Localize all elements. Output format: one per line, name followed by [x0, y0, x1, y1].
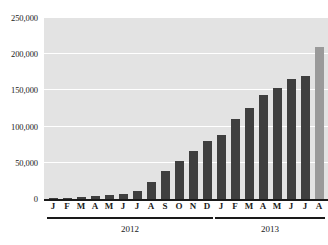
bar-slot — [144, 18, 158, 199]
year-group-rule — [215, 217, 325, 219]
plot-area — [44, 18, 328, 199]
x-axis-tick-label: D — [200, 201, 214, 216]
x-axis-tick-label: F — [60, 201, 74, 216]
bar[interactable] — [259, 95, 268, 199]
year-group: 2012 — [46, 217, 214, 245]
x-axis-tick-label: A — [88, 201, 102, 216]
bar[interactable] — [189, 151, 198, 199]
x-axis-tick-label: F — [228, 201, 242, 216]
bar[interactable] — [315, 47, 324, 199]
x-axis-tick-label: J — [116, 201, 130, 216]
bar[interactable] — [203, 141, 212, 199]
bar-slot — [228, 18, 242, 199]
bar-slot — [200, 18, 214, 199]
bar-slot — [102, 18, 116, 199]
x-axis-tick-label: O — [172, 201, 186, 216]
bar-slot — [256, 18, 270, 199]
year-group-rule — [47, 217, 213, 219]
y-axis: 050,000100,000150,000200,000250,000 — [0, 0, 40, 199]
bar-slot — [284, 18, 298, 199]
x-axis-tick-label: J — [284, 201, 298, 216]
bar-slot — [116, 18, 130, 199]
year-group-label: 2012 — [46, 224, 214, 234]
bar[interactable] — [175, 161, 184, 199]
y-axis-tick-label: 0 — [34, 194, 38, 204]
bar-slot — [270, 18, 284, 199]
y-axis-tick-label: 150,000 — [11, 85, 38, 95]
y-axis-tick-label: 50,000 — [15, 158, 38, 168]
x-axis-tick-label: A — [312, 201, 326, 216]
bar[interactable] — [161, 171, 170, 199]
x-axis-tick-label: M — [74, 201, 88, 216]
x-axis-tick-label: A — [256, 201, 270, 216]
x-axis-labels: JFMAMJJASONDJFMAMJJA — [44, 201, 328, 216]
x-axis-tick-label: J — [46, 201, 60, 216]
bar-slot — [158, 18, 172, 199]
bar-slot — [88, 18, 102, 199]
bar-slot — [60, 18, 74, 199]
bar-slot — [298, 18, 312, 199]
bar-slot — [186, 18, 200, 199]
year-group-axis: 20122013 — [44, 217, 328, 245]
x-axis-tick-label: M — [270, 201, 284, 216]
bar-slot — [46, 18, 60, 199]
bar[interactable] — [133, 191, 142, 199]
bar-slot — [172, 18, 186, 199]
bar-slot — [312, 18, 326, 199]
bar-series — [44, 18, 328, 199]
x-axis-tick-label: J — [298, 201, 312, 216]
year-group-label: 2013 — [214, 224, 326, 234]
bar[interactable] — [273, 88, 282, 199]
bar-slot — [214, 18, 228, 199]
x-axis-tick-label: S — [158, 201, 172, 216]
bar-slot — [74, 18, 88, 199]
x-axis-tick-label: M — [102, 201, 116, 216]
x-axis-tick-label: J — [130, 201, 144, 216]
y-axis-tick-label: 200,000 — [11, 49, 38, 59]
bar-chart: 050,000100,000150,000200,000250,000 JFMA… — [0, 0, 328, 245]
bar-slot — [130, 18, 144, 199]
bar[interactable] — [245, 108, 254, 199]
year-group: 2013 — [214, 217, 326, 245]
x-axis-tick-label: N — [186, 201, 200, 216]
bar[interactable] — [217, 135, 226, 199]
y-axis-tick-label: 250,000 — [11, 13, 38, 23]
bar[interactable] — [287, 79, 296, 199]
x-axis-tick-label: M — [242, 201, 256, 216]
bar[interactable] — [301, 76, 310, 199]
bar[interactable] — [231, 119, 240, 199]
bar-slot — [242, 18, 256, 199]
x-axis-tick-label: A — [144, 201, 158, 216]
bar[interactable] — [147, 182, 156, 199]
y-axis-tick-label: 100,000 — [11, 122, 38, 132]
x-axis-tick-label: J — [214, 201, 228, 216]
